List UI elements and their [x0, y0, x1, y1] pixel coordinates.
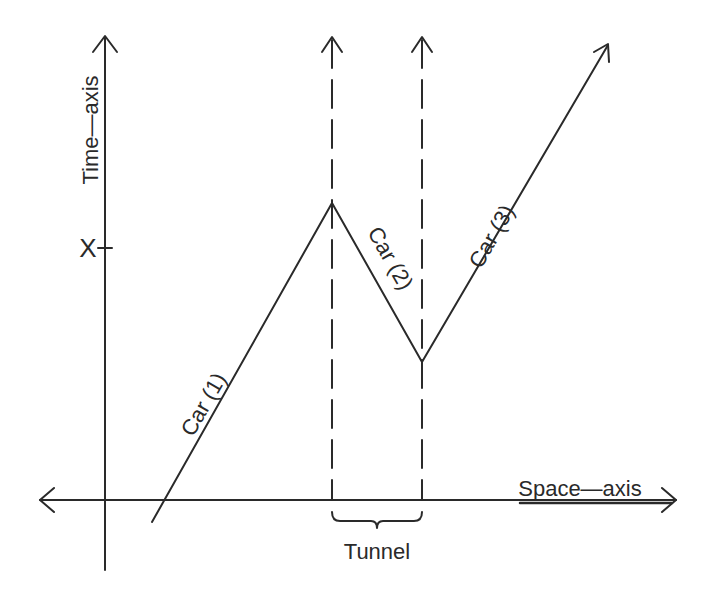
tunnel-boundary-left	[322, 37, 342, 500]
car1-line	[152, 203, 332, 522]
tunnel-boundary-right	[412, 37, 432, 500]
tunnel-label: Tunnel	[344, 539, 410, 564]
time-axis-label: Time—axis	[78, 75, 103, 184]
car3-line	[422, 45, 608, 362]
car3-label: Car (3)	[464, 200, 520, 272]
space-axis-label: Space—axis	[518, 476, 642, 501]
car2-label: Car (2)	[363, 222, 419, 294]
tunnel-brace	[332, 512, 422, 528]
x-tick-label: X	[79, 233, 96, 263]
space-time-diagram: Time—axis X Space—axis Car (1) Car (2) C…	[0, 0, 708, 602]
